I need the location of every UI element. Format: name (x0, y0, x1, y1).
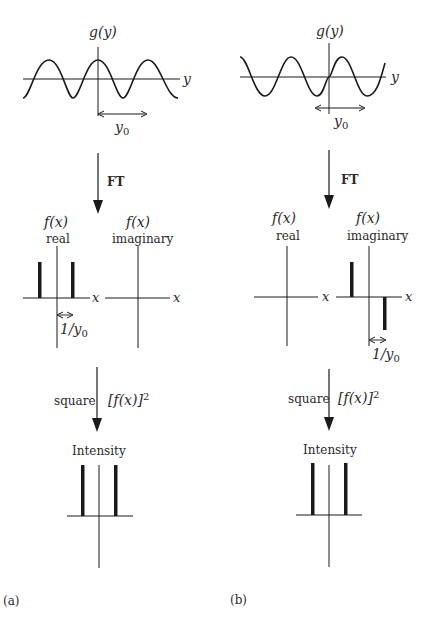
square-arrow: square [f(x)]2 (288, 369, 379, 431)
ft-label: FT (341, 173, 359, 187)
f-of-x-label: f(x) (43, 214, 68, 230)
intensity-spike-right (114, 465, 118, 516)
period-label: y0 (114, 119, 129, 137)
f-of-x-label: f(x) (125, 214, 150, 230)
spike-negative (383, 297, 387, 330)
panel-a-top-plot: g(y) y y0 (23, 24, 192, 137)
squared-expression: [f(x)]2 (338, 389, 379, 406)
x-axis-label: x (173, 290, 181, 305)
intensity-spike-right (344, 463, 348, 515)
panel-b-real-plot: f(x) real x (254, 210, 330, 346)
panel-a-imaginary-plot: f(x) imaginary x (105, 214, 181, 348)
real-label: real (46, 232, 70, 246)
g-of-y-label: g(y) (316, 23, 344, 39)
y-axis-label: y (182, 71, 192, 87)
panel-b: g(y) y y0 FT f(x) real x f(x) imaginary (230, 23, 413, 607)
intensity-label: Intensity (72, 444, 126, 458)
intensity-spike-left (311, 463, 315, 515)
spike-positive (71, 262, 75, 298)
panel-a-intensity-plot: Intensity (67, 444, 133, 568)
x-axis-label: x (405, 289, 413, 304)
imaginary-label: imaginary (112, 232, 174, 246)
intensity-label: Intensity (303, 443, 357, 457)
imaginary-label: imaginary (347, 229, 409, 243)
panel-a-caption: (a) (3, 594, 20, 608)
panel-b-caption: (b) (230, 593, 247, 607)
panel-b-intensity-plot: Intensity (296, 443, 362, 567)
panel-b-top-plot: g(y) y y0 (240, 23, 400, 131)
intensity-spike-left (81, 465, 85, 516)
fourier-transform-diagram: g(y) y y0 FT f(x) real x 1/y0 (0, 0, 431, 620)
y-axis-label: y (390, 69, 400, 85)
spacing-label: 1/y0 (60, 321, 88, 339)
square-label: square (54, 394, 96, 408)
panel-b-imaginary-plot: f(x) imaginary x 1/y0 (336, 210, 413, 364)
g-of-y-label: g(y) (89, 24, 117, 40)
square-label: square (288, 392, 330, 406)
x-axis-label: x (92, 290, 100, 305)
spacing-label: 1/y0 (372, 346, 400, 364)
square-arrow: square [f(x)]2 (54, 367, 149, 432)
ft-arrow: FT (93, 153, 125, 214)
ft-arrow: FT (324, 150, 359, 209)
f-of-x-label: f(x) (355, 210, 380, 226)
f-of-x-label: f(x) (271, 210, 296, 226)
period-label: y0 (333, 113, 348, 131)
squared-expression: [f(x)]2 (108, 391, 149, 408)
x-axis-label: x (322, 289, 330, 304)
spike-negative (38, 262, 42, 298)
panel-a: g(y) y y0 FT f(x) real x 1/y0 (3, 24, 192, 608)
panel-a-real-plot: f(x) real x 1/y0 (23, 214, 100, 348)
spike-positive (350, 262, 354, 297)
real-label: real (276, 229, 300, 243)
ft-label: FT (107, 175, 125, 189)
